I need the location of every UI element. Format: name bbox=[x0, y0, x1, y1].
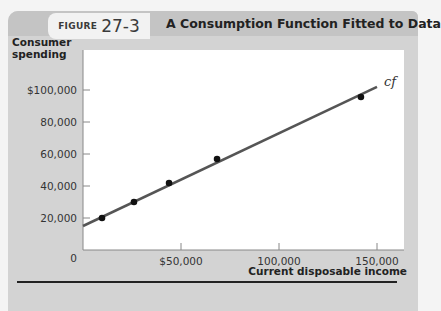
y-tick-label: 80,000 bbox=[40, 116, 77, 128]
data-point bbox=[214, 156, 221, 163]
bottom-rule bbox=[17, 281, 397, 283]
x-tick-label: $50,000 bbox=[159, 255, 202, 267]
y-tick-label: 0 bbox=[70, 252, 77, 264]
y-tick-label: 60,000 bbox=[40, 148, 77, 160]
data-point bbox=[358, 94, 365, 101]
y-tick-label: 20,000 bbox=[40, 212, 77, 224]
y-tick-label: $100,000 bbox=[27, 84, 77, 96]
y-tick-label: 40,000 bbox=[40, 180, 77, 192]
x-axis-label: Current disposable income bbox=[248, 265, 407, 277]
data-point bbox=[166, 180, 173, 187]
y-ticks: $100,00080,00060,00040,00020,0000 bbox=[27, 84, 90, 264]
data-point bbox=[99, 215, 106, 222]
data-point bbox=[131, 199, 138, 206]
